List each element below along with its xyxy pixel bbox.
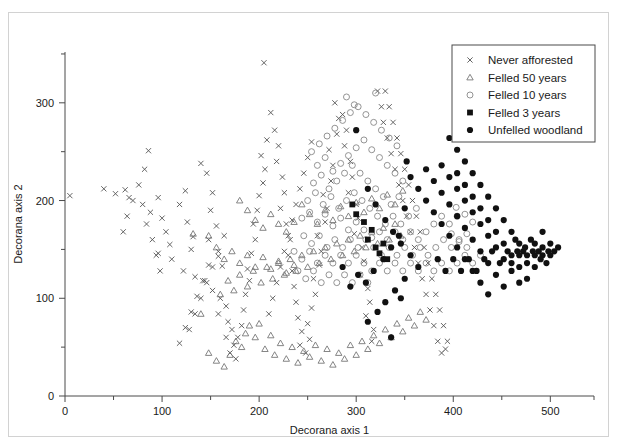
- marker-x: [441, 323, 446, 328]
- marker-x: [192, 274, 197, 279]
- marker-x: [332, 100, 337, 105]
- marker-circle-open: [330, 223, 336, 229]
- marker-circle-open: [398, 221, 404, 227]
- marker-circle-open: [326, 272, 332, 278]
- marker-triangle: [289, 344, 295, 350]
- marker-x: [216, 311, 221, 316]
- marker-circle-filled: [398, 240, 404, 246]
- marker-circle-filled: [547, 240, 553, 246]
- marker-circle-filled: [431, 178, 437, 184]
- marker-x: [406, 182, 411, 187]
- marker-circle-filled: [477, 221, 483, 227]
- marker-square-filled: [349, 202, 355, 208]
- marker-x: [222, 233, 227, 238]
- marker-x: [148, 210, 153, 215]
- marker-circle-filled: [382, 299, 388, 305]
- marker-x: [262, 167, 267, 172]
- marker-triangle: [268, 332, 274, 338]
- marker-x: [340, 112, 345, 117]
- marker-circle-open: [425, 252, 431, 258]
- marker-triangle: [277, 340, 283, 346]
- marker-circle-open: [309, 149, 315, 155]
- marker-x: [394, 135, 399, 140]
- marker-triangle: [400, 188, 406, 194]
- legend-label: Never afforested: [488, 54, 573, 66]
- marker-circle-open: [361, 137, 367, 143]
- marker-circle-filled: [501, 240, 507, 246]
- marker-x: [321, 192, 326, 197]
- marker-circle-filled: [477, 205, 483, 211]
- x-axis-title: Decorana axis 1: [290, 424, 370, 436]
- marker-x: [233, 356, 238, 361]
- marker-x: [334, 131, 339, 136]
- marker-x: [216, 254, 221, 259]
- marker-circle-filled: [462, 225, 468, 231]
- marker-triangle: [411, 322, 417, 328]
- marker-circle-filled: [470, 194, 476, 200]
- marker-circle-open: [318, 172, 324, 178]
- marker-x: [423, 292, 428, 297]
- marker-triangle: [225, 277, 231, 283]
- marker-square-filled: [365, 237, 371, 243]
- marker-x: [367, 300, 372, 305]
- marker-circle-open: [303, 276, 309, 282]
- marker-circle-filled: [489, 248, 495, 254]
- marker-x: [418, 229, 423, 234]
- marker-circle-open: [446, 221, 452, 227]
- marker-triangle: [318, 358, 324, 364]
- marker-circle-open: [318, 280, 324, 286]
- marker-triangle: [221, 363, 227, 369]
- marker-circle-filled: [497, 260, 503, 266]
- marker-circle-filled: [439, 221, 445, 227]
- marker-circle-open: [314, 162, 320, 168]
- marker-triangle: [376, 340, 382, 346]
- marker-x: [101, 186, 106, 191]
- marker-x: [309, 139, 314, 144]
- marker-circle-open: [431, 268, 437, 274]
- marker-circle-filled: [446, 233, 452, 239]
- marker-x: [346, 190, 351, 195]
- marker-x: [159, 216, 164, 221]
- marker-circle-filled: [493, 229, 499, 235]
- marker-circle-open: [453, 204, 459, 210]
- marker-square-filled: [361, 219, 367, 225]
- marker-circle-filled: [485, 233, 491, 239]
- marker-circle-filled: [532, 264, 538, 270]
- marker-triangle: [330, 362, 336, 368]
- marker-circle-filled: [524, 276, 530, 282]
- marker-circle-open: [384, 268, 390, 274]
- marker-triangle: [256, 320, 262, 326]
- marker-circle-filled: [493, 272, 499, 278]
- marker-triangle: [271, 352, 277, 358]
- marker-x: [130, 198, 135, 203]
- marker-circle-filled: [477, 280, 483, 286]
- marker-circle-open: [334, 178, 340, 184]
- marker-triangle: [252, 264, 258, 270]
- marker-x: [301, 171, 306, 176]
- y-tick-label: 300: [36, 97, 54, 109]
- marker-x: [255, 208, 260, 213]
- marker-circle-filled: [514, 248, 520, 254]
- marker-circle-filled: [454, 170, 460, 176]
- marker-circle-filled: [365, 319, 371, 325]
- marker-x: [309, 305, 314, 310]
- marker-circle-open: [394, 252, 400, 258]
- marker-x: [208, 208, 213, 213]
- marker-square-filled: [467, 110, 473, 116]
- marker-x: [293, 202, 298, 207]
- marker-circle-open: [345, 153, 351, 159]
- marker-circle-filled: [493, 205, 499, 211]
- marker-circle-open: [464, 231, 470, 237]
- marker-circle-open: [322, 155, 328, 161]
- marker-square-filled: [369, 227, 375, 233]
- marker-x: [387, 104, 392, 109]
- marker-circle-open: [342, 170, 348, 176]
- marker-circle-open: [332, 125, 338, 131]
- marker-x: [295, 315, 300, 320]
- marker-circle-open: [462, 211, 468, 217]
- marker-x: [270, 296, 275, 301]
- marker-triangle: [394, 320, 400, 326]
- marker-circle-filled: [446, 174, 452, 180]
- marker-circle-open: [392, 260, 398, 266]
- marker-x: [305, 321, 310, 326]
